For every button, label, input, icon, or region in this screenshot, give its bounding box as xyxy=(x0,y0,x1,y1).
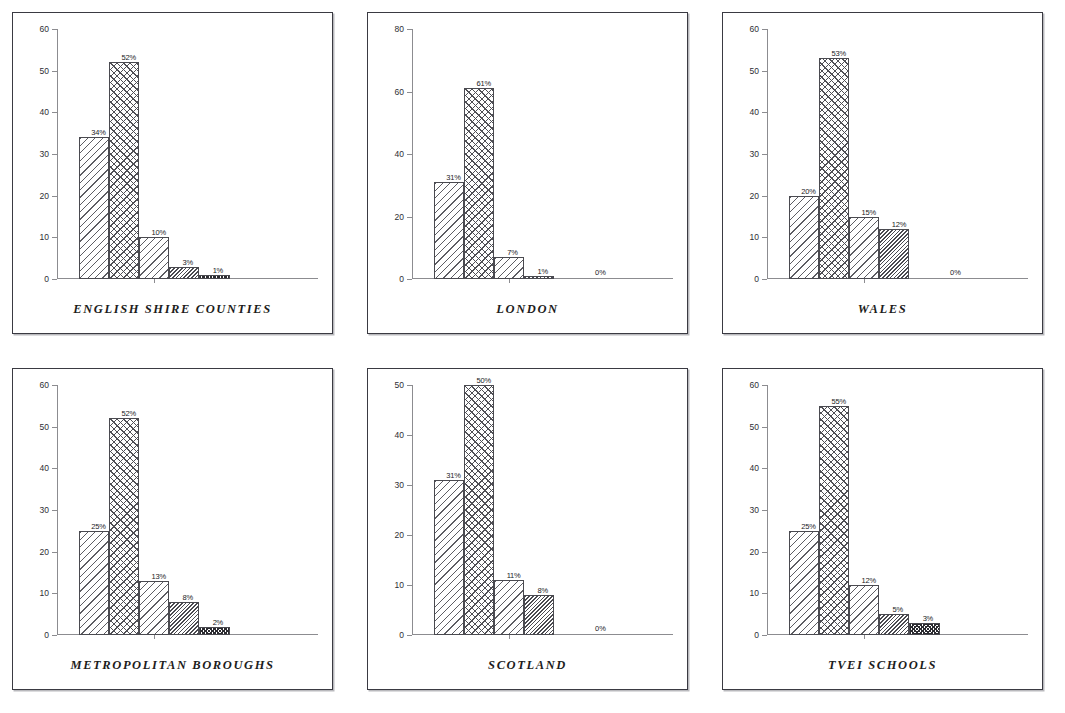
y-tick-mark xyxy=(407,154,412,155)
y-tick-label: 0 xyxy=(44,630,49,640)
bar: 7% xyxy=(494,257,524,279)
panel-slot-5: 0102030405060 25%55%12%5%3% TVEI SCHOOLS xyxy=(710,356,1065,712)
y-tick-label: 30 xyxy=(395,480,404,490)
axis-box-5: 0102030405060 25%55%12%5%3% xyxy=(767,385,1028,635)
bar-value-label: 1% xyxy=(213,266,223,275)
y-tick-label: 50 xyxy=(40,422,49,432)
bar: 1% xyxy=(199,275,229,279)
y-tick-mark xyxy=(762,29,767,30)
bar: 15% xyxy=(849,217,879,280)
chart-panel-tvei-schools: 0102030405060 25%55%12%5%3% TVEI SCHOOLS xyxy=(722,368,1043,690)
bar-value-label: 52% xyxy=(121,53,135,62)
y-tick-label: 0 xyxy=(399,630,404,640)
bar-value-label: 1% xyxy=(537,267,547,276)
y-tick-label: 20 xyxy=(750,191,759,201)
bar: 31% xyxy=(434,480,464,635)
panel-slot-0: 0102030405060 34%52%10%3%1% ENGLISH SHIR… xyxy=(0,0,355,356)
y-tick-mark xyxy=(407,29,412,30)
y-tick-mark xyxy=(52,71,57,72)
bar-group-5: 25%55%12%5%3% xyxy=(768,385,1028,635)
bar-value-label: 25% xyxy=(91,522,105,531)
y-tick-label: 40 xyxy=(395,149,404,159)
plot-area-1: 020406080 31%61%7%1%0% xyxy=(368,13,687,333)
bar-group-2: 20%53%15%12%0% xyxy=(768,29,1028,279)
bar: 10% xyxy=(139,237,169,279)
chart-panel-scotland: 01020304050 31%50%11%8%0% SCOTLAND xyxy=(367,368,688,690)
y-tick-label: 30 xyxy=(750,505,759,515)
bar: 53% xyxy=(819,58,849,279)
y-tick-label: 80 xyxy=(395,24,404,34)
bar-value-label: 25% xyxy=(801,522,815,531)
bar: 61% xyxy=(464,88,494,279)
bar-value-label: 34% xyxy=(91,128,105,137)
bar: 13% xyxy=(139,581,169,635)
bar: 1% xyxy=(524,276,554,279)
x-axis-mid-tick xyxy=(154,635,155,639)
y-tick-label: 30 xyxy=(750,149,759,159)
bar-value-label: 52% xyxy=(121,409,135,418)
bar-label-zero: 0% xyxy=(595,268,606,277)
y-tick-label: 10 xyxy=(40,232,49,242)
panel-title-5: TVEI SCHOOLS xyxy=(723,658,1042,673)
y-tick-label: 40 xyxy=(40,463,49,473)
x-axis-mid-tick xyxy=(154,279,155,283)
axis-box-4: 01020304050 31%50%11%8%0% xyxy=(412,385,673,635)
y-tick-mark xyxy=(52,237,57,238)
axis-box-3: 0102030405060 25%52%13%8%2% xyxy=(57,385,318,635)
bar-value-label: 10% xyxy=(152,228,166,237)
y-tick-label: 40 xyxy=(750,107,759,117)
bar: 34% xyxy=(79,137,109,279)
bar: 25% xyxy=(79,531,109,635)
bar-value-label: 53% xyxy=(831,49,845,58)
y-tick-label: 20 xyxy=(395,212,404,222)
bar-value-label: 8% xyxy=(182,593,192,602)
y-tick-label: 50 xyxy=(750,66,759,76)
bar-value-label: 50% xyxy=(476,376,490,385)
bar-value-label: 5% xyxy=(892,605,902,614)
y-tick-mark xyxy=(52,29,57,30)
y-tick-label: 50 xyxy=(395,380,404,390)
bar: 8% xyxy=(169,602,199,635)
bar: 11% xyxy=(494,580,524,635)
x-axis-mid-tick xyxy=(509,635,510,639)
bar: 3% xyxy=(909,623,939,636)
bar-value-label: 13% xyxy=(152,572,166,581)
bar-value-label: 15% xyxy=(862,208,876,217)
y-tick-mark xyxy=(52,279,57,280)
bar-group-0: 34%52%10%3%1% xyxy=(58,29,318,279)
y-tick-mark xyxy=(762,112,767,113)
y-tick-mark xyxy=(762,552,767,553)
y-tick-label: 0 xyxy=(399,274,404,284)
bar-value-label: 12% xyxy=(862,576,876,585)
y-tick-mark xyxy=(762,71,767,72)
bar: 55% xyxy=(819,406,849,635)
y-tick-label: 60 xyxy=(40,24,49,34)
y-tick-label: 20 xyxy=(40,547,49,557)
y-tick-mark xyxy=(52,427,57,428)
y-tick-mark xyxy=(407,217,412,218)
y-tick-mark xyxy=(762,510,767,511)
y-tick-label: 30 xyxy=(40,505,49,515)
y-tick-label: 50 xyxy=(750,422,759,432)
y-tick-mark xyxy=(52,196,57,197)
chart-panel-wales: 0102030405060 20%53%15%12%0% WALES xyxy=(722,12,1043,334)
y-tick-label: 60 xyxy=(750,380,759,390)
bar-group-3: 25%52%13%8%2% xyxy=(58,385,318,635)
y-tick-label: 40 xyxy=(40,107,49,117)
bar-value-label: 11% xyxy=(507,571,521,580)
bar: 52% xyxy=(109,62,139,279)
axis-box-1: 020406080 31%61%7%1%0% xyxy=(412,29,673,279)
bar-value-label: 7% xyxy=(507,248,517,257)
plot-area-3: 0102030405060 25%52%13%8%2% xyxy=(13,369,332,689)
y-tick-mark xyxy=(762,154,767,155)
y-tick-mark xyxy=(407,385,412,386)
bar: 3% xyxy=(169,267,199,280)
y-tick-mark xyxy=(52,510,57,511)
y-tick-mark xyxy=(52,593,57,594)
y-tick-mark xyxy=(407,92,412,93)
y-tick-label: 40 xyxy=(395,430,404,440)
y-tick-mark xyxy=(407,279,412,280)
y-tick-mark xyxy=(762,593,767,594)
panel-title-2: WALES xyxy=(723,302,1042,317)
y-tick-mark xyxy=(52,468,57,469)
